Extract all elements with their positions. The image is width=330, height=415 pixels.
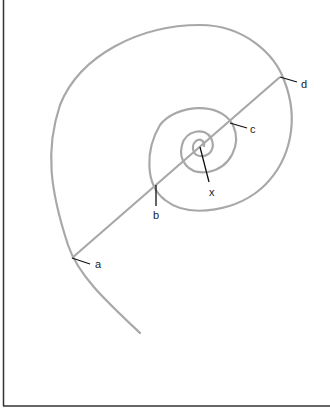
leader-d (280, 77, 297, 82)
label-b: b (153, 209, 159, 221)
label-c: c (250, 123, 256, 135)
center-line (72, 77, 280, 258)
spiral-diagram: a b c d x (0, 0, 330, 415)
spiral-curve (51, 25, 292, 333)
label-d: d (301, 78, 307, 90)
label-a: a (95, 258, 102, 270)
leader-x (200, 147, 209, 182)
label-x: x (209, 186, 215, 198)
